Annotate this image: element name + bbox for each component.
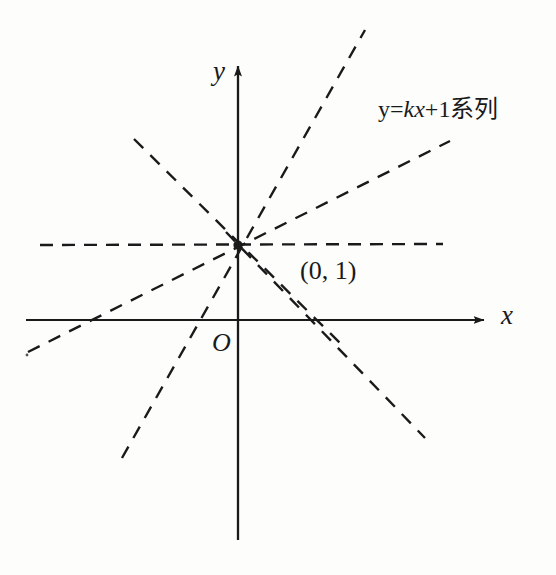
series-equation-suffix: +1系列 (425, 96, 499, 122)
common-point-label: (0, 1) (300, 258, 356, 284)
common-point-marker (233, 240, 242, 249)
series-equation-x: x (414, 96, 425, 122)
origin-label: O (212, 330, 231, 356)
series-equation-label: y=kx+1系列 (378, 97, 498, 121)
series-equation-k: k (404, 96, 415, 122)
y-axis-label: y (213, 58, 225, 85)
series-equation-prefix: y= (378, 96, 404, 122)
plot-canvas (0, 0, 556, 575)
scan-speck (26, 354, 29, 357)
x-axis-label: x (501, 302, 513, 329)
coordinate-plot-figure: y x O (0, 1) y=kx+1系列 (0, 0, 556, 575)
